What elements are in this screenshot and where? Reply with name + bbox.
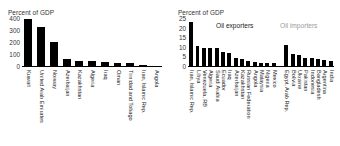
left-chart-bar-slot xyxy=(149,18,162,66)
right-chart-bar xyxy=(291,54,295,66)
left-chart-bar xyxy=(24,19,32,66)
left-chart-label-slot: Norway xyxy=(47,69,60,70)
right-chart-x-tick-label: Angola xyxy=(252,70,258,87)
left-chart-bar-slot xyxy=(22,18,35,66)
left-chart-label-slot: Iran, Islamic Rep. xyxy=(137,69,150,70)
right-chart-x-tick-label: Venezuela, RB xyxy=(201,70,207,107)
right-chart-y-tick: 0 xyxy=(182,64,186,70)
left-chart-label-slot: Oman xyxy=(111,69,124,70)
right-chart-bar xyxy=(208,48,212,66)
left-chart-x-tick-labels: KuwaitUnited Arab EmiratesNorwayAzerbaij… xyxy=(22,69,162,70)
left-chart-y-tick: 100 xyxy=(9,52,20,58)
right-chart-x-tick-label: Bolivia xyxy=(290,70,296,86)
right-chart-x-tick-labels: Iran, Islamic Rep.LibyaVenezuela, RBAlge… xyxy=(188,69,334,70)
right-chart-label-slot: India xyxy=(328,69,334,70)
right-chart-x-tick-label: Libya xyxy=(195,70,201,83)
left-chart-x-tick-label: Kazakhstan xyxy=(77,70,83,99)
right-chart-x-tick-label: Saudi Arabia xyxy=(214,70,220,102)
right-chart-x-tick-label: Indonesia xyxy=(309,70,315,94)
left-chart-bar-slot xyxy=(111,18,124,66)
left-chart-label-slot: Azerbaijan xyxy=(60,69,73,70)
right-chart-bars xyxy=(188,18,334,66)
left-chart-x-tick-label: Kuwait xyxy=(26,70,32,87)
right-chart-x-tick-label: Bangladesh xyxy=(315,70,321,100)
right-chart-bar xyxy=(316,59,320,66)
left-chart-x-tick-label: Iraq xyxy=(102,70,108,80)
right-chart-bar xyxy=(215,48,219,66)
right-chart-x-tick-label: Iran, Islamic Rep. xyxy=(188,70,194,114)
right-chart-bar xyxy=(221,52,225,66)
right-chart-y-tick: 5 xyxy=(182,54,186,60)
right-chart-y-tick: 25 xyxy=(179,16,186,22)
left-chart-x-tick-label: Oman xyxy=(115,70,121,85)
left-chart-label-slot: Algeria xyxy=(86,69,99,70)
right-chart-bar xyxy=(297,55,301,66)
left-chart-bars xyxy=(22,18,162,66)
right-chart-bar xyxy=(310,58,314,66)
left-chart-x-tick-label: Trinidad and Tobago xyxy=(127,70,133,121)
right-chart-bar xyxy=(234,58,238,66)
right-chart-x-tick-label: Ecuador xyxy=(220,70,226,91)
right-chart-bar xyxy=(227,53,231,66)
left-chart-bar xyxy=(50,42,58,66)
right-chart-x-tick-label: Azerbaijan xyxy=(233,70,239,96)
left-chart-label-slot: Iraq xyxy=(98,69,111,70)
right-chart-x-tick-label: Ukraine xyxy=(296,70,302,89)
left-chart-y-tick: 400 xyxy=(9,16,20,22)
right-chart-bar xyxy=(189,22,193,66)
left-chart-x-tick-label: Norway xyxy=(51,70,57,89)
left-chart-x-tick-label: United Arab Emirates xyxy=(38,70,44,123)
left-chart-bar xyxy=(37,27,45,66)
right-chart-bar xyxy=(303,58,307,66)
left-chart-plot-area: 0100200300400 xyxy=(22,19,162,67)
left-chart-y-tick: 300 xyxy=(9,28,20,34)
right-chart-x-tick-label: Russian Federation xyxy=(245,70,251,119)
left-chart-bar-slot xyxy=(60,18,73,66)
right-chart-plot-area: 0510152025 xyxy=(188,19,334,67)
left-chart-label-slot: Kazakhstan xyxy=(73,69,86,70)
left-chart-label-slot: Trinidad and Tobago xyxy=(124,69,137,70)
right-chart-bar xyxy=(284,45,288,66)
left-chart-bar-slot xyxy=(73,18,86,66)
right-chart-x-tick-label: Algeria xyxy=(207,70,213,87)
right-chart-y-tick: 10 xyxy=(179,45,186,51)
left-chart-y-tick: 200 xyxy=(9,40,20,46)
right-chart-bar xyxy=(196,46,200,66)
right-chart-x-axis-line xyxy=(188,66,334,67)
left-chart-bar-slot xyxy=(86,18,99,66)
right-chart-x-tick-label: Argentina xyxy=(322,70,328,94)
right-chart-y-tick: 20 xyxy=(179,25,186,31)
left-chart-bar-slot xyxy=(35,18,48,66)
right-chart-bar xyxy=(202,48,206,66)
left-chart-x-tick-label: Angola xyxy=(153,70,159,87)
right-chart-bar-slot xyxy=(328,18,334,66)
right-chart-x-tick-label: Mexico xyxy=(271,70,277,88)
right-chart-x-tick-label: Egypt, Arab Rep. xyxy=(284,70,290,112)
left-chart-bar-slot xyxy=(137,18,150,66)
right-chart-x-tick-label: Iraq xyxy=(226,70,232,80)
left-chart-label-slot: Angola xyxy=(149,69,162,70)
left-chart-x-tick-label: Iran, Islamic Rep. xyxy=(140,70,146,114)
right-chart-x-tick-label: Pakistan xyxy=(303,70,309,91)
left-chart-x-tick-label: Azerbaijan xyxy=(64,70,70,96)
right-chart-x-tick-label: Malaysia xyxy=(258,70,264,92)
right-chart-bar xyxy=(240,59,244,66)
left-chart-label-slot: United Arab Emirates xyxy=(35,69,48,70)
right-chart-x-tick-label: Nigeria xyxy=(265,70,271,88)
figure-two-bar-charts: Percent of GDP 0100200300400 KuwaitUnite… xyxy=(0,0,340,146)
right-chart-x-tick-label: Kazakhstan xyxy=(239,70,245,99)
right-chart-x-tick-label: India xyxy=(328,70,334,82)
left-chart-label-slot: Kuwait xyxy=(22,69,35,70)
left-chart-y-tick: 0 xyxy=(16,64,20,70)
chart-panel-right: Percent of GDP Oil exporters Oil importe… xyxy=(170,0,340,146)
left-chart-bar xyxy=(63,59,71,66)
left-chart-bar-slot xyxy=(98,18,111,66)
left-chart-x-axis-line xyxy=(22,66,162,67)
chart-panel-left: Percent of GDP 0100200300400 KuwaitUnite… xyxy=(0,0,170,146)
left-chart-bar-slot xyxy=(124,18,137,66)
left-chart-x-tick-label: Algeria xyxy=(89,70,95,87)
right-chart-y-tick: 15 xyxy=(179,35,186,41)
left-chart-bar-slot xyxy=(47,18,60,66)
